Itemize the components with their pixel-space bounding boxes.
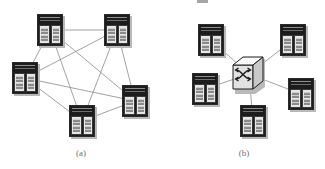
server-rack-bay [136,96,147,115]
server-rack-blade [244,126,251,129]
server-rack-bay [254,116,265,135]
server-rack-body [192,73,218,105]
server-rack-blade [284,48,291,51]
server-rack-right[interactable] [288,78,314,110]
server-rack-blade [296,48,303,51]
server-rack-bays [105,24,129,45]
server-rack-blade [214,48,221,51]
server-rack-blade [108,28,115,31]
server-rack-bays [281,34,305,55]
server-rack-body [12,62,38,94]
server-rack-blade [244,129,251,132]
server-rack-blade [202,41,209,44]
server-rack-top-bezel [123,86,147,95]
server-rack-body [288,78,314,110]
server-rack-top-bezel [13,63,37,72]
server-rack-bays [241,115,265,136]
server-rack-bay [290,89,301,108]
server-rack-bay [294,35,305,54]
server-rack-bays [199,34,223,55]
server-rack-left[interactable] [192,73,218,105]
server-rack-blade [214,41,221,44]
server-rack-blade [53,28,60,31]
server-rack-blade [256,126,263,129]
server-rack-blade [244,119,251,122]
server-rack-top-left[interactable] [198,24,224,56]
server-rack-body [240,105,266,137]
server-rack-blade [202,45,209,48]
server-rack-blade [108,38,115,41]
server-rack-top-right[interactable] [104,14,130,46]
server-rack-blade [126,109,133,112]
server-rack-blade [256,129,263,132]
server-rack-blade [28,79,35,82]
server-rack-blade [292,102,299,105]
network-switch[interactable] [231,54,267,94]
server-rack-bay [39,25,50,44]
server-rack-top-bezel [241,106,265,115]
server-rack-blade [196,97,203,100]
server-rack-blade [108,31,115,34]
figure-container: (a) (b) [0,0,325,169]
server-rack-body [280,24,306,56]
server-rack-blade [196,87,203,90]
server-rack-blade [138,99,145,102]
server-rack-blade [53,38,60,41]
server-rack-blade [244,122,251,125]
server-rack-top-bezel [38,15,62,24]
server-rack-blade [208,90,215,93]
server-rack-top-right[interactable] [280,24,306,56]
server-rack-body [37,14,63,46]
server-rack-blade [256,119,263,122]
server-rack-bay [194,84,205,103]
server-rack-blade [208,97,215,100]
server-rack-blade [208,94,215,97]
server-rack-blade [296,38,303,41]
server-rack-blade [16,76,23,79]
server-rack-bay [206,84,217,103]
server-rack-top-bezel [199,25,223,34]
server-rack-blade [292,95,299,98]
server-rack-blade [28,86,35,89]
server-rack-bay [212,35,223,54]
server-rack-blade [256,122,263,125]
server-rack-blade [208,87,215,90]
server-rack-left[interactable] [12,62,38,94]
server-rack-bay [242,116,253,135]
server-rack-top-bezel [289,79,313,88]
server-rack-blade [126,106,133,109]
server-rack-blade [202,38,209,41]
server-rack-blade [126,99,133,102]
server-rack-blade [73,122,80,125]
server-rack-bays [38,24,62,45]
server-rack-right[interactable] [122,85,148,117]
switch-crossing-arrows-icon [231,54,267,94]
panel-a-full-mesh-topology: (a) [0,0,162,169]
server-rack-blade [41,35,48,38]
server-rack-blade [138,102,145,105]
server-rack-blade [85,119,92,122]
server-rack-blade [108,35,115,38]
server-rack-top-left[interactable] [37,14,63,46]
server-rack-blade [73,126,80,129]
panel-a-caption: (a) [0,148,162,158]
server-rack-bottom-center[interactable] [240,105,266,137]
panel-b-caption: (b) [163,148,325,158]
server-rack-blade [41,31,48,34]
server-rack-blade [214,38,221,41]
server-rack-body [122,85,148,117]
server-rack-blade [85,126,92,129]
server-rack-blade [202,48,209,51]
server-rack-blade [214,45,221,48]
server-rack-blade [73,119,80,122]
server-rack-bay [124,96,135,115]
server-rack-blade [196,94,203,97]
server-rack-bay [83,116,94,135]
server-rack-bays [123,95,147,116]
server-rack-blade [120,28,127,31]
server-rack-blade [73,129,80,132]
server-rack-blade [16,83,23,86]
server-rack-blade [284,41,291,44]
server-rack-bays [193,83,217,104]
server-rack-bottom-center[interactable] [69,105,95,137]
